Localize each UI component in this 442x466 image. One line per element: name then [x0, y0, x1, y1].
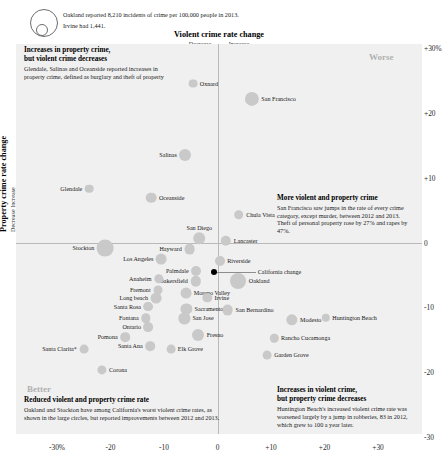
data-point-bubble[interactable]	[188, 79, 197, 88]
y-axis-sub: Decrease Increase	[9, 187, 16, 232]
data-point-bubble[interactable]	[144, 302, 154, 312]
plot-inner: OxnardSan FranciscoSalinasGlendaleOceans…	[16, 44, 422, 434]
note-bottom-right-body: Huntington Beach's increased violent cri…	[277, 405, 417, 428]
irvine-size-circle-icon	[36, 24, 48, 36]
note-bottom-left-head: Reduced violent and property crime rate	[24, 396, 220, 405]
data-point-bubble[interactable]	[144, 323, 154, 333]
x-tick-label: +30	[372, 443, 384, 452]
note-top-left-body: Glendale, Salinas and Oceanside reported…	[24, 65, 176, 80]
x-tick-label: +20	[319, 443, 331, 452]
data-point-label: Stockton	[73, 245, 95, 252]
data-point-bubble[interactable]	[215, 256, 225, 266]
y-tick-label: -10	[424, 303, 434, 312]
data-point-label: Bakersfield	[160, 278, 188, 285]
note-bottom-right: Increases in violent crime, but property…	[277, 386, 417, 428]
data-point-bubble[interactable]	[263, 351, 272, 360]
note-bottom-right-head-2: but property crime decreases	[277, 395, 417, 404]
plot-area: OxnardSan FranciscoSalinasGlendaleOceans…	[16, 44, 422, 434]
data-point-bubble[interactable]	[97, 366, 106, 375]
x-axis-line	[16, 243, 422, 244]
note-bottom-left: Reduced violent and property crime rate …	[24, 396, 220, 421]
y-axis-line	[218, 44, 219, 434]
data-point-label: Lancaster	[234, 237, 258, 244]
y-tick-label: +10	[424, 174, 436, 183]
data-point-label: Santa Ana	[118, 343, 143, 350]
data-point-bubble[interactable]	[120, 332, 130, 342]
y-tick-label: -20	[424, 368, 434, 377]
data-point-label: Palmdale	[166, 268, 189, 275]
data-point-label: Anaheim	[129, 275, 151, 282]
data-point-label: Oceanside	[159, 194, 184, 201]
data-point-label: Santa Rosa	[114, 303, 141, 310]
y-tick-label: -30	[424, 433, 434, 442]
note-right-head: More violent and property crime	[277, 194, 413, 203]
x-tick-label: -30%	[49, 443, 65, 452]
data-point-bubble[interactable]	[192, 329, 204, 341]
data-point-bubble[interactable]	[85, 184, 94, 193]
data-point-label: Sacramento	[195, 305, 224, 312]
note-bottom-left-body: Oakland and Stockton have among Californ…	[24, 406, 220, 421]
corner-label-better: Better	[27, 384, 51, 394]
data-point-bubble[interactable]	[203, 293, 212, 302]
data-point-label: Riverside	[227, 258, 250, 265]
data-point-bubble[interactable]	[230, 273, 246, 289]
data-point-bubble[interactable]	[222, 305, 233, 316]
data-point-bubble[interactable]	[286, 314, 297, 325]
legend-line-oakland: Oakland reported 8,210 incidents of crim…	[63, 9, 239, 20]
data-point-bubble[interactable]	[191, 266, 201, 276]
x-tick-label: -10	[159, 443, 169, 452]
data-point-label: Chula Vista	[246, 211, 274, 218]
x-axis-title: Violent crime rate change	[174, 30, 264, 40]
data-point-bubble[interactable]	[221, 235, 231, 245]
data-point-label: Long beach	[119, 295, 148, 302]
data-point-label: Irvine	[215, 294, 230, 301]
data-point-label: Salinas	[159, 151, 177, 158]
data-point-bubble[interactable]	[179, 313, 190, 324]
data-point-bubble[interactable]	[145, 341, 155, 351]
data-point-label: Oakland	[249, 278, 270, 285]
data-point-bubble[interactable]	[97, 240, 114, 257]
data-point-label: Pomona	[98, 334, 118, 341]
data-point-label: Elk Grove	[178, 345, 203, 352]
legend-circle-group	[30, 9, 58, 37]
data-point-label: San Diego	[187, 225, 213, 232]
data-point-label: San Francisco	[261, 95, 295, 102]
x-tick-label: +10	[265, 443, 277, 452]
y-axis-title: Property crime rate change	[0, 136, 8, 232]
note-right: More violent and property crime San Fran…	[277, 194, 413, 235]
data-point-bubble[interactable]	[270, 334, 278, 342]
x-tick-label: -20	[106, 443, 116, 452]
legend-text: Oakland reported 8,210 incidents of crim…	[63, 9, 239, 31]
data-point-label: Fresno	[207, 332, 224, 339]
data-point-bubble[interactable]	[194, 232, 206, 244]
data-point-bubble[interactable]	[167, 344, 176, 353]
note-bottom-right-head-1: Increases in violent crime,	[277, 386, 417, 395]
data-point-label: Fontana	[119, 315, 139, 322]
data-point-label: California change	[258, 269, 301, 276]
data-point-bubble[interactable]	[245, 91, 259, 105]
note-top-left-head-1: Increases in property crime,	[24, 46, 176, 55]
note-right-body: San Francisco saw jumps in the rate of e…	[277, 204, 413, 234]
data-point-bubble[interactable]	[79, 344, 88, 353]
corner-label-worse: Worse	[369, 52, 394, 62]
data-point-label: Oxnard	[200, 80, 218, 87]
data-point-bubble[interactable]	[156, 254, 167, 265]
data-point-bubble[interactable]	[184, 244, 195, 255]
note-top-left-head-2: but violent crime decreases	[24, 55, 176, 64]
data-point-bubble[interactable]	[151, 293, 162, 304]
data-point-label: Ontario	[122, 324, 141, 331]
data-point-bubble[interactable]	[181, 288, 192, 299]
data-point-label: Modesto	[300, 316, 321, 323]
data-point-label: Glendale	[60, 185, 82, 192]
data-point-bubble[interactable]	[190, 276, 200, 286]
data-point-bubble[interactable]	[179, 149, 191, 161]
data-point-label: Santa Clarita*	[42, 345, 77, 352]
data-point-label: Corona	[109, 367, 127, 374]
note-top-left: Increases in property crime, but violent…	[24, 46, 176, 81]
data-point-bubble[interactable]	[234, 210, 244, 220]
y-tick-label: +20	[424, 109, 436, 118]
data-point-bubble[interactable]	[146, 192, 157, 203]
data-point-label: Los Angeles	[123, 256, 153, 263]
data-point-bubble[interactable]	[321, 314, 329, 322]
